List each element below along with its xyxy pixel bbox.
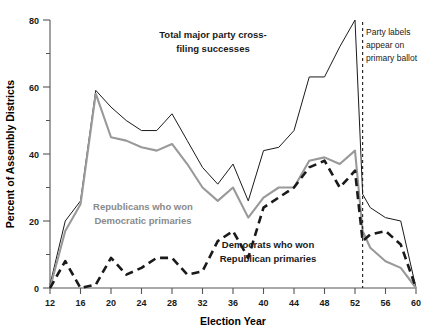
y-tick-label-60: 60 <box>29 83 39 93</box>
y-axis-major-ticks <box>43 20 50 288</box>
y-tick-label-0: 0 <box>34 284 39 294</box>
x-tick-label-56: 56 <box>380 298 390 308</box>
annotation-democrats-line1: Democrats who won <box>222 239 315 250</box>
x-tick-label-12: 12 <box>45 298 55 308</box>
annotation-party-labels-line3: primary ballot <box>366 53 418 63</box>
annotation-republicans: Republicans who won Democratic primaries <box>93 201 193 226</box>
x-axis-tick-labels: 12 16 20 24 28 32 36 40 44 48 52 56 60 <box>45 298 421 308</box>
x-tick-label-28: 28 <box>167 298 177 308</box>
annotation-total-line1: Total major party cross- <box>159 29 267 40</box>
annotation-party-labels-line1: Party labels <box>366 27 410 37</box>
annotation-republicans-line1: Republicans who won <box>93 201 193 212</box>
y-axis-title: Percent of Assembly Districts <box>4 80 16 229</box>
cross-filing-line-chart: 0 20 40 60 80 12 16 20 24 <box>0 0 432 334</box>
y-tick-label-40: 40 <box>29 150 39 160</box>
x-tick-label-60: 60 <box>411 298 421 308</box>
x-tick-label-36: 36 <box>228 298 238 308</box>
y-tick-label-80: 80 <box>29 16 39 26</box>
x-tick-label-52: 52 <box>350 298 360 308</box>
x-tick-label-32: 32 <box>197 298 207 308</box>
x-tick-label-48: 48 <box>319 298 329 308</box>
annotation-democrats-line2: Republican primaries <box>220 253 317 264</box>
x-tick-label-24: 24 <box>136 298 146 308</box>
annotation-republicans-line2: Democratic primaries <box>94 215 191 226</box>
annotation-party-labels-line2: appear on <box>366 40 405 50</box>
chart-figure: 0 20 40 60 80 12 16 20 24 <box>0 0 432 334</box>
annotation-party-labels: Party labels appear on primary ballot <box>366 27 418 63</box>
x-tick-label-16: 16 <box>75 298 85 308</box>
y-axis-tick-labels: 0 20 40 60 80 <box>29 16 39 294</box>
x-tick-label-40: 40 <box>258 298 268 308</box>
x-tick-label-44: 44 <box>289 298 299 308</box>
y-tick-label-20: 20 <box>29 217 39 227</box>
annotation-democrats: Democrats who won Republican primaries <box>220 239 317 264</box>
annotation-total: Total major party cross- filing successe… <box>159 29 267 54</box>
x-axis-title: Election Year <box>200 315 266 327</box>
x-axis-ticks <box>50 288 416 294</box>
x-tick-label-20: 20 <box>106 298 116 308</box>
annotation-total-line2: filing successes <box>176 43 249 54</box>
